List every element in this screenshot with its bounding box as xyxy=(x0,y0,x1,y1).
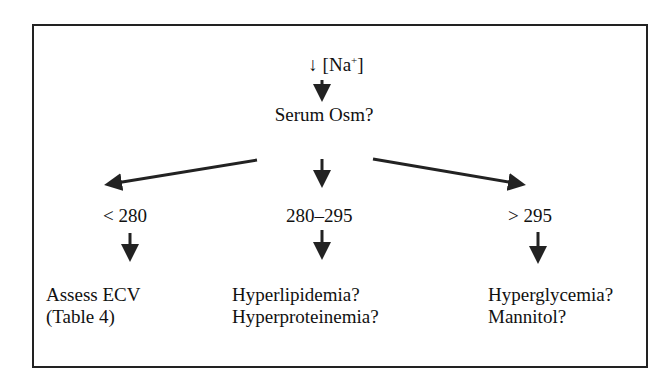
outcome-line: Mannitol? xyxy=(488,306,613,328)
outcome-low: Assess ECV (Table 4) xyxy=(46,284,140,328)
outcome-line: Hyperglycemia? xyxy=(488,284,613,306)
title-suffix: ] xyxy=(357,54,363,75)
outcome-line: Hyperlipidemia? xyxy=(232,284,379,306)
arrow-left-diagonal-icon xyxy=(110,160,257,184)
branch-range-normal: 280–295 xyxy=(286,205,353,227)
outcome-line: Hyperproteinemia? xyxy=(232,306,379,328)
outcome-line: (Table 4) xyxy=(46,306,140,328)
arrow-right-diagonal-icon xyxy=(373,159,520,184)
start-node-low-sodium: ↓ [Na+] xyxy=(308,54,363,76)
outcome-line: Assess ECV xyxy=(46,284,140,306)
question-node-serum-osm: Serum Osm? xyxy=(275,104,374,126)
outcome-normal: Hyperlipidemia? Hyperproteinemia? xyxy=(232,284,379,328)
branch-range-high: > 295 xyxy=(508,205,552,227)
outcome-high: Hyperglycemia? Mannitol? xyxy=(488,284,613,328)
branch-range-low: < 280 xyxy=(103,205,147,227)
title-prefix: ↓ [Na xyxy=(308,54,351,75)
